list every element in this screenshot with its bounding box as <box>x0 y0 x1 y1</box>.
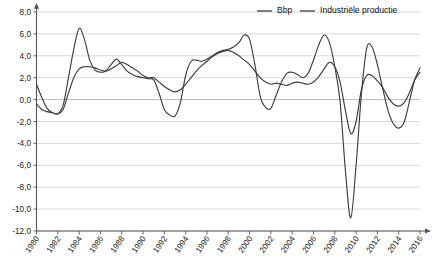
x-tick-label: 2012 <box>364 234 382 254</box>
x-tick-label: 1992 <box>151 234 169 254</box>
x-tick-label: 1980 <box>24 234 42 254</box>
y-tick-label: -8,0 <box>17 183 32 192</box>
x-tick-label: 2008 <box>322 234 340 254</box>
y-tick-label: 8,0 <box>20 8 32 17</box>
x-tick-label: 2002 <box>258 234 276 254</box>
data-series <box>37 28 421 218</box>
line-chart: 8,06,04,02,00,0-2,0-4,0-6,0-8,0-10,0-12,… <box>0 0 438 268</box>
chart-axes <box>34 3 431 234</box>
x-tick-label: 2006 <box>300 234 318 254</box>
legend-label-2: Industriële productie <box>320 5 398 15</box>
y-axis-arrow <box>34 3 39 9</box>
y-tick-label: -2,0 <box>17 118 32 127</box>
series-line-industri-le-productie <box>37 28 421 218</box>
x-tick-label: 2016 <box>407 234 425 254</box>
y-tick-label: 2,0 <box>20 74 32 83</box>
gridlines <box>37 12 421 231</box>
x-tick-label: 1986 <box>87 234 105 254</box>
x-tick-label: 1988 <box>109 234 127 254</box>
x-tick-label: 2000 <box>237 234 255 254</box>
x-axis-arrow <box>425 228 431 233</box>
x-tick-label: 1998 <box>215 234 233 254</box>
x-tick-label: 1984 <box>66 234 84 254</box>
chart-legend: BbpIndustriële productie <box>257 5 398 15</box>
x-axis-ticks: 1980198219841986198819901992199419961998… <box>24 231 426 255</box>
x-tick-label: 2014 <box>386 234 404 254</box>
x-tick-label: 1982 <box>45 234 63 254</box>
y-tick-label: -10,0 <box>12 205 31 214</box>
y-axis-ticks: 8,06,04,02,00,0-2,0-4,0-6,0-8,0-10,0-12,… <box>12 8 36 236</box>
x-tick-label: 1990 <box>130 234 148 254</box>
x-tick-label: 1994 <box>173 234 191 254</box>
x-tick-label: 2004 <box>279 234 297 254</box>
y-tick-label: -6,0 <box>17 161 32 170</box>
legend-label-1: Bbp <box>277 5 293 15</box>
y-tick-label: 4,0 <box>20 52 32 61</box>
y-tick-label: -4,0 <box>17 139 32 148</box>
x-tick-label: 1996 <box>194 234 212 254</box>
chart-container: 8,06,04,02,00,0-2,0-4,0-6,0-8,0-10,0-12,… <box>0 0 438 268</box>
y-tick-label: 6,0 <box>20 30 32 39</box>
y-tick-label: -12,0 <box>12 227 31 236</box>
x-tick-label: 2010 <box>343 234 361 254</box>
y-tick-label: 0,0 <box>20 96 32 105</box>
